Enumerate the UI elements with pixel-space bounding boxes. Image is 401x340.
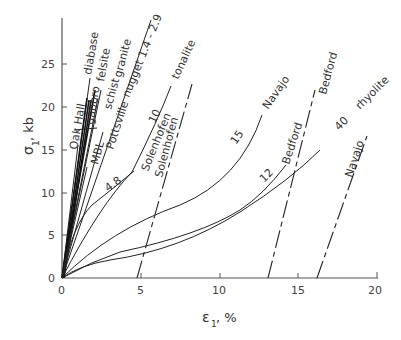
y-tick-0: 0 (48, 272, 55, 285)
curve-labels: Oak Hall diabase gabbro felsite MBL schi… (67, 12, 392, 194)
x-tick-15: 15 (291, 284, 305, 297)
y-axis-title: σ 1 , kb (20, 117, 41, 155)
label-navajo-1: Navajo (260, 73, 293, 112)
label-gabbro: gabbro (83, 85, 103, 126)
label-p12: 12 (257, 166, 276, 185)
y-tick-15: 15 (41, 144, 55, 157)
x-tick-5: 5 (137, 284, 144, 297)
y-tick-25: 25 (41, 58, 55, 71)
x-tick-0: 0 (58, 284, 65, 297)
label-rhyolite: rhyolite (353, 73, 392, 112)
label-p40: 40 (332, 114, 351, 133)
label-p15: 15 (228, 128, 247, 147)
x-axis-title: ε 1 , % (202, 309, 237, 329)
svg-text:, %: , % (216, 310, 237, 325)
label-bedford-2: Bedford (316, 51, 340, 96)
x-tick-20: 20 (368, 284, 382, 297)
y-tick-20: 20 (41, 101, 55, 114)
x-tick-10: 10 (212, 284, 226, 297)
label-navajo-2: Navajo (342, 139, 366, 179)
label-tonalite: tonalite (169, 38, 199, 82)
svg-text:ε: ε (202, 309, 210, 325)
stress-strain-chart: 0 5 10 15 20 25 0 5 10 15 20 σ 1 , kb ε … (0, 0, 401, 340)
svg-text:σ: σ (20, 146, 36, 155)
y-tick-5: 5 (48, 229, 55, 242)
y-tick-10: 10 (41, 187, 55, 200)
svg-text:, kb: , kb (21, 117, 36, 141)
curve-bedford-unload (268, 90, 315, 278)
label-p4-8: 4.8 (102, 174, 124, 195)
